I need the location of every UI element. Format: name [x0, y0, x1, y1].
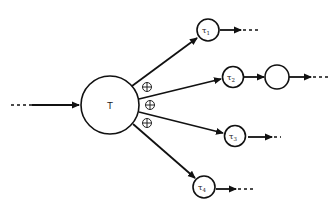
- node-tau1: τ1: [197, 19, 261, 41]
- central-node-label: T: [106, 101, 113, 111]
- node-tau2: τ2: [223, 67, 265, 88]
- oplus-icon: [143, 119, 152, 128]
- node-tau4: τ4: [193, 176, 253, 198]
- tree-diagram: T τ1 τ2: [0, 0, 328, 209]
- oplus-icon: [143, 83, 152, 92]
- central-node-t: T: [81, 76, 139, 134]
- node-extra: [265, 65, 328, 89]
- edge-t-tau1: [132, 38, 197, 86]
- oplus-icon: [146, 101, 155, 110]
- node-tau3: τ3: [225, 126, 282, 147]
- edge-t-tau4: [133, 124, 195, 178]
